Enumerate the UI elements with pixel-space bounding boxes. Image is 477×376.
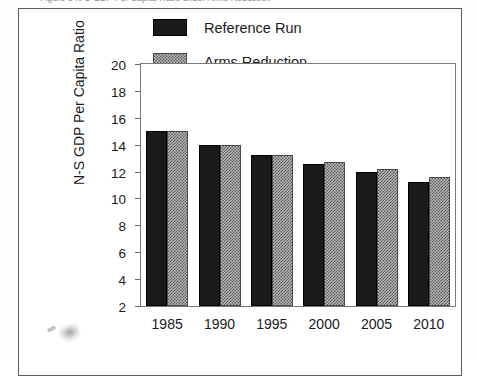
y-axis-tick-label: 2 [118,300,126,315]
plot-area: 2018161412108642 19851990199520002005201… [140,63,456,307]
bar-2000-reference-run [303,164,324,307]
y-axis-tick-label: 20 [111,58,126,73]
y-axis-tick-label: 12 [111,165,126,180]
y-axis-tick: 12 [135,172,141,173]
y-axis-tick-label: 14 [111,138,126,153]
x-axis-tick-label: 1990 [204,316,235,332]
x-axis-tick-label: 1995 [256,316,287,332]
y-axis-tick-label: 6 [118,246,126,261]
y-axis-tick-label: 16 [111,111,126,126]
y-axis-tick: 2 [135,306,141,307]
legend-swatch-reference-run [153,19,187,36]
x-axis-tick-label: 2005 [361,316,392,332]
legend-label-reference-run: Reference Run [204,20,302,36]
figure-caption-text: Figure 6 N-S GDP Per Capita Ratio under … [40,0,271,3]
y-axis-tick-label: 4 [118,273,126,288]
bar-1990-reference-run [199,145,220,306]
bar-2005-arms-reduction [377,169,398,306]
bar-1995-arms-reduction [272,155,293,306]
bar-1995-reference-run [251,155,272,306]
y-axis-tick: 14 [135,145,141,146]
legend-item-reference-run: Reference Run [153,19,307,36]
bar-1985-arms-reduction [167,131,188,306]
y-axis-tick: 4 [135,279,141,280]
bar-2000-arms-reduction [324,162,345,306]
y-axis-tick-label: 8 [118,219,126,234]
bar-2010-reference-run [408,182,429,306]
y-axis-tick: 8 [135,225,141,226]
y-axis-tick: 20 [135,64,141,65]
figure-frame: N-S GDP Per Capita Ratio Reference Run A… [18,8,462,376]
x-axis-tick-label: 2010 [413,316,444,332]
y-axis-tick: 10 [135,198,141,199]
x-axis-tick-label: 1985 [152,316,183,332]
y-axis-tick: 16 [135,118,141,119]
y-axis-tick: 18 [135,91,141,92]
bar-2005-reference-run [356,172,377,306]
figure-caption-cropped: Figure 6 N-S GDP Per Capita Ratio under … [0,0,477,7]
y-axis-tick-label: 10 [111,192,126,207]
bar-1990-arms-reduction [220,145,241,306]
y-axis-tick: 6 [135,252,141,253]
y-axis-title: N-S GDP Per Capita Ratio [71,20,87,185]
y-axis-tick-label: 18 [111,84,126,99]
bar-1985-reference-run [146,131,167,306]
x-axis-tick-label: 2000 [309,316,340,332]
bar-2010-arms-reduction [429,177,450,306]
